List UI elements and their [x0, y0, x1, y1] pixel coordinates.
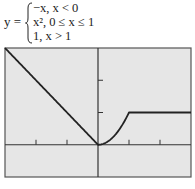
graph-plot: [0, 0, 195, 189]
